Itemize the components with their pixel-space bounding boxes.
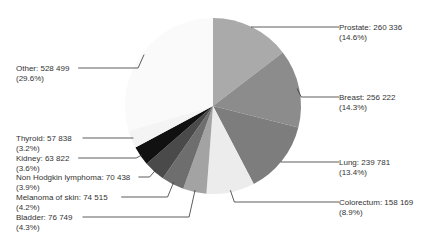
- slice-label-name-value: Breast: 256 222: [339, 93, 395, 102]
- slice-label: Colorectum: 158 169(8.9%): [339, 198, 413, 217]
- slice-label-percent: (3.2%): [16, 144, 72, 154]
- slice-label-percent: (29.6%): [16, 74, 69, 84]
- slice-label: Kidney: 63 822(3.6%): [16, 154, 69, 173]
- slice-label-percent: (13.4%): [339, 168, 390, 178]
- slice-label: Bladder: 76 749(4.3%): [16, 213, 73, 232]
- leader-line: [78, 55, 144, 68]
- slice-label-name-value: Melanoma of skin: 74 515: [16, 193, 108, 202]
- slice-label: Prostate: 260 336(14.6%): [339, 23, 402, 42]
- slice-label-percent: (3.9%): [16, 183, 130, 193]
- leader-line: [78, 155, 142, 158]
- slice-label: Melanoma of skin: 74 515(4.2%): [16, 193, 108, 212]
- leader-line: [138, 170, 155, 177]
- slice-label-name-value: Lung: 239 781: [339, 158, 390, 167]
- slice-label-name-value: Prostate: 260 336: [339, 23, 402, 32]
- slice-label-name-value: Non Hodgkin lymphoma: 70 438: [16, 173, 130, 182]
- slice-label: Lung: 239 781(13.4%): [339, 158, 390, 177]
- slice-label-percent: (3.6%): [16, 164, 69, 174]
- slice-label: Non Hodgkin lymphoma: 70 438(3.9%): [16, 173, 130, 192]
- slice-label: Other: 528 499(29.6%): [16, 64, 69, 83]
- leader-line: [230, 190, 339, 202]
- slice-label-percent: (14.3%): [339, 103, 395, 113]
- slice-label-percent: (4.2%): [16, 203, 108, 213]
- slice-label-name-value: Thyroid: 57 838: [16, 134, 72, 143]
- slice-label-percent: (8.9%): [339, 208, 413, 218]
- pie-slices: [125, 18, 301, 194]
- slice-label-name-value: Kidney: 63 822: [16, 154, 69, 163]
- slice-label-name-value: Other: 528 499: [16, 64, 69, 73]
- slice-label: Breast: 256 222(14.3%): [339, 93, 395, 112]
- leader-line: [297, 89, 339, 97]
- slice-label-percent: (14.6%): [339, 33, 402, 43]
- slice-label-name-value: Bladder: 76 749: [16, 213, 73, 222]
- slice-label-name-value: Colorectum: 158 169: [339, 198, 413, 207]
- slice-label: Thyroid: 57 838(3.2%): [16, 134, 72, 153]
- slice-label-percent: (4.3%): [16, 223, 73, 233]
